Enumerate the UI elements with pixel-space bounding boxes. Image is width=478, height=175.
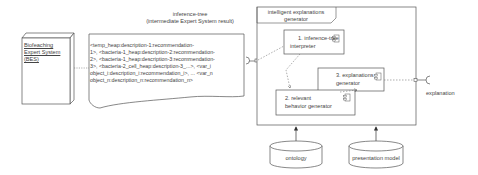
component-3-label-line1: 3. explanations	[336, 72, 374, 79]
component-1-label-line2: interpreter	[290, 43, 316, 50]
explanation-interface-socket	[426, 76, 430, 84]
presentation-model-label: presentation model	[349, 155, 403, 162]
explanation-interface-label: explanation	[426, 90, 455, 97]
document-line-2: 1>, <bacteria-1_heap:description-2:recom…	[90, 49, 215, 56]
port-icon	[414, 79, 417, 82]
generator-title-line2: generator	[258, 16, 334, 23]
component-2-label-line1: 2. relevant	[285, 95, 311, 102]
document-title: inference-tree	[140, 11, 240, 18]
diagram-canvas	[0, 0, 478, 175]
component-1-label-line1: 1. inference-tree	[298, 35, 339, 42]
ontology-label: ontology	[270, 155, 322, 162]
component-3-label-line2: generator	[336, 80, 360, 87]
document-line-3: 2>, <bacteria-1_heap:description-3:recom…	[90, 56, 215, 63]
document-line-4: 3>, <bacteria-2_cell_heap:description-3_…	[90, 63, 211, 70]
bes-label-line1: Biofeaching	[24, 42, 53, 49]
document-line-1: <temp_heap:description-1:recommendation-	[90, 42, 194, 49]
component-2-label-line2: behavior generator	[285, 103, 332, 110]
generator-title-line1: intelligent explanations	[258, 9, 334, 16]
required-interface-socket	[246, 57, 250, 64]
document-line-5: object_i:description_i:recommendation_i>…	[90, 70, 213, 77]
document-subtitle: (intermediate Expert System result)	[115, 18, 265, 25]
bes-label-line3: (BES)	[24, 56, 39, 63]
document-line-6: object_n:description_n:recommendation_n>	[90, 77, 193, 84]
bes-label-line2: Expert System	[24, 49, 60, 56]
